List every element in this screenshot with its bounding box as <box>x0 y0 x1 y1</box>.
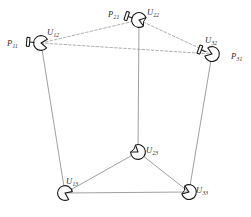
label-u32: U32 <box>205 36 217 45</box>
label-u23: U23 <box>146 146 158 155</box>
edge-u12-u32 <box>41 43 212 54</box>
diagram-canvas: U12P11U22P21U32P31U23U13U33 <box>0 0 251 217</box>
edge-u32-u33 <box>189 54 212 192</box>
label-p11: P11 <box>7 39 18 48</box>
label-u13: U13 <box>66 177 78 186</box>
label-u12: U12 <box>47 28 59 37</box>
edges-layer <box>41 20 212 193</box>
label-p31: P31 <box>231 52 242 61</box>
antenna-dish-icon <box>204 45 222 63</box>
node-u22[interactable] <box>123 9 147 29</box>
feed-horn-icon <box>197 45 203 54</box>
edge-u23-u33 <box>138 152 189 192</box>
edge-u22-u23 <box>138 20 139 152</box>
edge-u13-u33 <box>65 192 189 193</box>
node-u32[interactable] <box>196 42 222 63</box>
network-diagram <box>0 0 251 217</box>
node-u12[interactable] <box>26 34 48 51</box>
label-p21: P21 <box>108 10 119 19</box>
feed-horn-icon <box>124 11 130 20</box>
edge-u12-u13 <box>41 43 65 193</box>
label-u22: U22 <box>147 8 159 17</box>
label-u33: U33 <box>196 186 208 195</box>
feed-horn-icon <box>26 37 30 46</box>
